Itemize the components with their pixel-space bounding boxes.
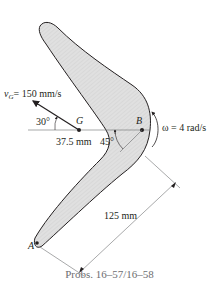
omega-arrow xyxy=(152,112,158,147)
omega-label: ω = 4 rad/s xyxy=(162,122,206,133)
angle-30-label: 30° xyxy=(36,116,50,127)
figure-caption: Probs. 16–57/16–58 xyxy=(0,268,219,280)
angle-30-arc xyxy=(55,117,57,130)
point-A-dot xyxy=(35,241,39,245)
point-G-label: G xyxy=(76,115,83,126)
point-B-label: B xyxy=(136,115,142,126)
distance-125-label: 125 mm xyxy=(104,210,137,221)
velocity-label: vG= 150 mm/s xyxy=(4,88,61,101)
point-A-label: A xyxy=(27,240,35,251)
distance-GB-label: 37.5 mm xyxy=(56,136,92,147)
point-G-dot xyxy=(77,128,81,132)
boomerang-diagram: vG= 150 mm/s 30° G B 37.5 mm 45° ω = 4 r… xyxy=(0,0,219,292)
dim-arrow-top-icon xyxy=(171,182,176,188)
angle-45-label: 45° xyxy=(100,136,114,147)
